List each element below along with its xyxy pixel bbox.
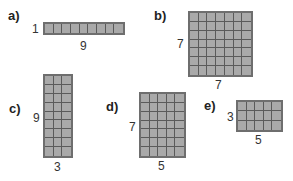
grid-cell [175, 121, 184, 130]
grid-cell [45, 138, 54, 147]
grid-cell [54, 24, 63, 33]
grid-cell [216, 13, 225, 22]
grid-cell [216, 40, 225, 49]
grid-cell [242, 13, 251, 22]
grid-cell [45, 129, 54, 138]
grid-cell [62, 24, 71, 33]
grid-cell [190, 48, 199, 57]
grid-cell [242, 31, 251, 40]
grid-cell [114, 24, 123, 33]
grid-cell [97, 24, 106, 33]
grid-cell [62, 129, 71, 138]
grid-cell [199, 66, 208, 75]
grid-cell [225, 22, 234, 31]
height-label-e: 3 [227, 111, 234, 123]
grid-cell [167, 147, 176, 156]
grid-cell [62, 120, 71, 129]
grid-cell [272, 102, 281, 111]
grid-cell [45, 85, 54, 94]
grid-cell [234, 31, 243, 40]
grid-cell [242, 66, 251, 75]
grid-cell [242, 40, 251, 49]
grid-cell [190, 31, 199, 40]
width-label-d: 5 [158, 160, 165, 172]
grid-cell [167, 138, 176, 147]
grid-cell [150, 112, 159, 121]
grid-cell [141, 112, 150, 121]
grid-cell [158, 129, 167, 138]
grid-cell [225, 66, 234, 75]
grid-cell [45, 112, 54, 121]
grid-cell [141, 103, 150, 112]
grid-rectangle-c [43, 74, 73, 158]
grid-cell [158, 138, 167, 147]
grid-cell [190, 57, 199, 66]
grid-cell [106, 24, 115, 33]
grid-cell [54, 120, 63, 129]
grid-cell [199, 57, 208, 66]
grid-cell [167, 121, 176, 130]
grid-cell [207, 48, 216, 57]
height-label-d: 7 [129, 121, 136, 133]
grid-cell [167, 129, 176, 138]
grid-cell [167, 94, 176, 103]
grid-cell [54, 94, 63, 103]
grid-cell [225, 40, 234, 49]
grid-cell [216, 48, 225, 57]
grid-cell [54, 129, 63, 138]
grid-cell [234, 22, 243, 31]
grid-cell [45, 147, 54, 156]
grid-cell [80, 24, 89, 33]
grid-cell [54, 112, 63, 121]
grid-cell [141, 94, 150, 103]
grid-cell [150, 94, 159, 103]
grid-cell [71, 24, 80, 33]
grid-cell [207, 13, 216, 22]
grid-cell [62, 76, 71, 85]
height-label-a: 1 [32, 23, 39, 35]
grid-cell [242, 48, 251, 57]
grid-cell [45, 24, 54, 33]
grid-cell [225, 13, 234, 22]
grid-cell [141, 138, 150, 147]
grid-cell [190, 13, 199, 22]
grid-cell [216, 31, 225, 40]
grid-cell [54, 103, 63, 112]
grid-rectangle-e [236, 100, 283, 132]
width-label-b: 7 [215, 79, 222, 91]
grid-cell [225, 48, 234, 57]
grid-cell [238, 121, 247, 130]
figure-label-e: e) [204, 99, 216, 112]
height-label-b: 7 [177, 38, 184, 50]
figure-label-a: a) [8, 9, 20, 22]
grid-cell [255, 102, 264, 111]
grid-cell [207, 57, 216, 66]
grid-cell [238, 102, 247, 111]
grid-cell [54, 147, 63, 156]
grid-cell [158, 94, 167, 103]
grid-rectangle-d [139, 92, 186, 158]
grid-cell [225, 57, 234, 66]
grid-cell [175, 112, 184, 121]
grid-cell [199, 48, 208, 57]
grid-cell [207, 22, 216, 31]
grid-cell [167, 112, 176, 121]
grid-cell [54, 85, 63, 94]
grid-cell [150, 147, 159, 156]
grid-cell [199, 31, 208, 40]
grid-cell [158, 112, 167, 121]
grid-cell [247, 102, 256, 111]
grid-cell [141, 129, 150, 138]
grid-cell [158, 103, 167, 112]
grid-cell [247, 111, 256, 120]
grid-cell [45, 94, 54, 103]
grid-rectangle-a [43, 22, 125, 35]
grid-cell [272, 121, 281, 130]
grid-cell [45, 76, 54, 85]
figure-label-b: b) [154, 9, 166, 22]
grid-cell [167, 103, 176, 112]
figure-label-d: d) [106, 100, 118, 113]
grid-cell [225, 31, 234, 40]
grid-cell [199, 40, 208, 49]
grid-cell [255, 111, 264, 120]
